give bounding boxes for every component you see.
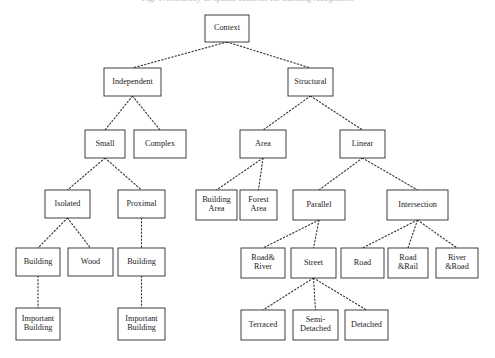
node-small[interactable]: Small: [85, 130, 125, 158]
node-label-street: Street: [304, 258, 324, 267]
node-label-important-building-1-line1: Important: [22, 314, 55, 323]
edge-independent-to-small: [105, 96, 133, 130]
node-label-important-building-2-line1: Important: [125, 314, 158, 323]
node-important-building-1[interactable]: ImportantBuilding: [16, 308, 60, 340]
edge-intersection-to-river-road: [418, 220, 458, 248]
edge-area-to-building-area: [217, 158, 264, 190]
node-label-building-area-line2: Area: [209, 204, 225, 213]
node-layer: ContextIndependentStructuralSmallComplex…: [16, 15, 478, 340]
edge-parallel-to-street: [314, 220, 320, 248]
edge-context-to-independent: [133, 42, 228, 68]
edge-context-to-structural: [227, 42, 311, 68]
edge-linear-to-intersection: [363, 158, 418, 190]
node-street[interactable]: Street: [291, 248, 336, 278]
node-area[interactable]: Area: [240, 130, 286, 158]
node-label-semi-detached-line2: Detached: [300, 324, 331, 333]
edge-isolated-to-building-isolated: [38, 218, 68, 248]
edge-structural-to-area: [263, 96, 311, 130]
node-terraced[interactable]: Terraced: [241, 310, 285, 340]
tree-canvas: ContextIndependentStructuralSmallComplex…: [0, 0, 495, 358]
edge-area-to-forest-area: [259, 158, 264, 190]
node-label-isolated: Isolated: [55, 199, 81, 208]
edge-structural-to-linear: [311, 96, 363, 130]
node-river-road[interactable]: River&Road: [436, 248, 478, 278]
node-label-important-building-2-line2: Building: [127, 323, 156, 332]
node-building-isolated[interactable]: Building: [16, 248, 60, 276]
node-isolated[interactable]: Isolated: [45, 190, 90, 218]
node-building-area[interactable]: BuildingArea: [196, 190, 237, 220]
node-semi-detached[interactable]: Semi-Detached: [293, 310, 338, 340]
node-parallel[interactable]: Parallel: [293, 190, 345, 220]
node-structural[interactable]: Structural: [288, 68, 333, 96]
node-label-structural: Structural: [294, 77, 327, 86]
edge-intersection-to-road-rail: [408, 220, 418, 248]
node-road[interactable]: Road: [341, 248, 384, 278]
node-label-parallel: Parallel: [306, 200, 332, 209]
node-label-intersection: Intersection: [398, 200, 437, 209]
node-label-small: Small: [95, 139, 115, 148]
node-road-river[interactable]: Road&River: [241, 248, 285, 278]
node-label-building-isolated: Building: [24, 257, 53, 266]
node-label-proximal: Proximal: [126, 199, 157, 208]
node-label-forest-area-line1: Forest: [248, 195, 269, 204]
node-label-building-proximal: Building: [127, 257, 156, 266]
node-independent[interactable]: Independent: [104, 68, 161, 96]
node-label-forest-area-line2: Area: [251, 204, 267, 213]
node-label-road-rail-line1: Road: [399, 253, 416, 262]
edge-isolated-to-wood: [68, 218, 91, 248]
node-label-area: Area: [255, 139, 271, 148]
node-important-building-2[interactable]: ImportantBuilding: [118, 308, 165, 340]
node-complex[interactable]: Complex: [134, 130, 186, 158]
node-road-rail[interactable]: Road&Rail: [388, 248, 428, 278]
node-label-important-building-1-line2: Building: [24, 323, 53, 332]
edge-street-to-terraced: [263, 278, 314, 310]
node-label-independent: Independent: [112, 77, 153, 86]
edge-linear-to-parallel: [319, 158, 363, 190]
node-label-linear: Linear: [352, 139, 374, 148]
node-building-proximal[interactable]: Building: [118, 248, 165, 276]
node-proximal[interactable]: Proximal: [118, 190, 165, 218]
node-label-complex: Complex: [145, 139, 175, 148]
node-label-building-area-line1: Building: [202, 195, 231, 204]
edge-street-to-semi-detached: [314, 278, 316, 310]
node-wood[interactable]: Wood: [68, 248, 113, 276]
node-label-wood: Wood: [81, 257, 100, 266]
node-label-road-river-line1: Road&: [251, 253, 275, 262]
node-forest-area[interactable]: ForestArea: [240, 190, 277, 220]
edge-small-to-isolated: [68, 158, 106, 190]
node-label-river-road-line2: &Road: [445, 262, 469, 271]
edge-small-to-proximal: [105, 158, 142, 190]
node-linear[interactable]: Linear: [340, 130, 385, 158]
node-label-road-rail-line2: &Rail: [398, 262, 419, 271]
node-label-detached: Detached: [351, 320, 382, 329]
edge-independent-to-complex: [133, 96, 161, 130]
node-label-context: Context: [214, 23, 241, 32]
node-label-river-road-line1: River: [448, 253, 466, 262]
node-context[interactable]: Context: [205, 15, 249, 42]
node-label-road: Road: [354, 258, 371, 267]
node-label-terraced: Terraced: [249, 320, 278, 329]
edge-street-to-detached: [314, 278, 367, 310]
edge-parallel-to-road-river: [263, 220, 319, 248]
node-detached[interactable]: Detached: [345, 310, 388, 340]
node-label-semi-detached-line1: Semi-: [306, 315, 326, 324]
context-hierarchy-diagram: Fig. 1. Hierarchy of spatial contexts fo…: [0, 0, 495, 358]
node-intersection[interactable]: Intersection: [387, 190, 448, 220]
node-label-road-river-line2: River: [254, 262, 272, 271]
